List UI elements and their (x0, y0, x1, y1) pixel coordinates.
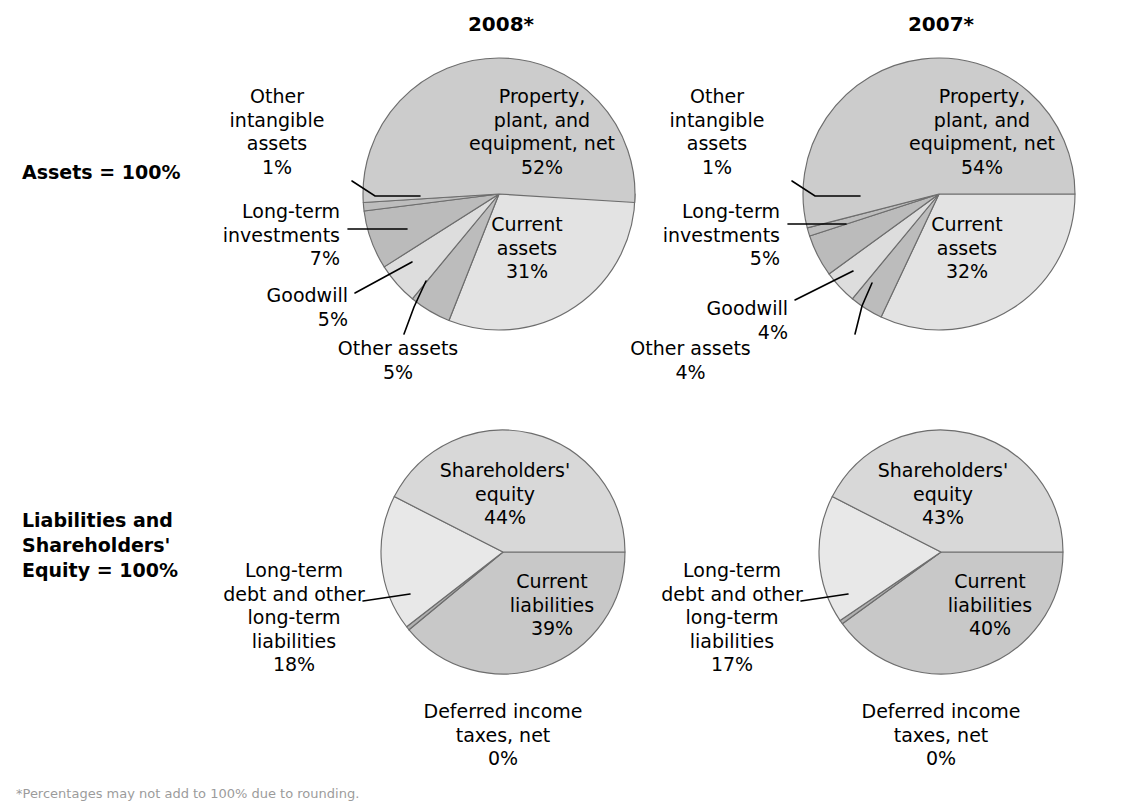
pie-label-long-term-debt: Long-term debt and other long-term liabi… (652, 559, 812, 677)
pie-label-text-long-term-debt: Long-term debt and other long-term liabi… (661, 559, 803, 652)
pie-label-value-long-term-debt: 17% (711, 653, 753, 675)
figure-footnote: *Percentages may not add to 100% due to … (16, 786, 359, 801)
pie-label-deferred-income-taxes: Deferred income taxes, net 0% (831, 700, 1051, 771)
pie-label-value-deferred-income-taxes: 0% (926, 747, 956, 769)
pie-label-text-deferred-income-taxes: Deferred income taxes, net (862, 700, 1021, 746)
